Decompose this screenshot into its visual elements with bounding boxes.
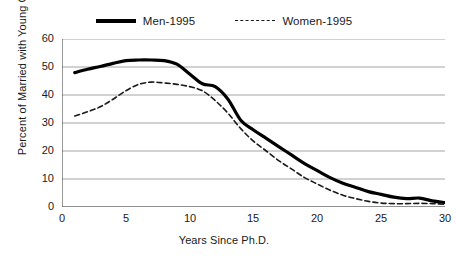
chart-canvas	[62, 39, 445, 207]
y-tick-40: 40	[28, 89, 54, 100]
gridlines	[62, 39, 445, 207]
legend-label-men: Men-1995	[143, 15, 196, 27]
data-series-layer	[75, 60, 445, 204]
y-tick-50: 50	[28, 61, 54, 72]
x-tick-15: 15	[238, 213, 268, 224]
legend-entry-men: Men-1995	[96, 15, 196, 27]
x-tick-30: 30	[430, 213, 456, 224]
y-tick-60: 60	[28, 33, 54, 44]
dashed-line-icon	[235, 16, 275, 26]
legend-entry-women: Women-1995	[235, 15, 352, 27]
x-axis-title: Years Since Ph.D.	[0, 234, 448, 246]
y-axis-title: Percent of Married with Young Children	[16, 0, 28, 158]
x-tick-5: 5	[111, 213, 141, 224]
series-line-women-1995	[75, 82, 445, 204]
y-tick-30: 30	[28, 117, 54, 128]
y-tick-0: 0	[28, 201, 54, 212]
x-tick-20: 20	[302, 213, 332, 224]
series-line-men-1995	[75, 60, 445, 203]
x-tick-25: 25	[366, 213, 396, 224]
solid-line-icon	[96, 16, 136, 26]
x-axis-ticks: 0 5 10 15 20 25 30	[0, 213, 448, 229]
legend-label-women: Women-1995	[282, 15, 352, 27]
plot-area	[62, 39, 445, 207]
x-tick-0: 0	[47, 213, 77, 224]
y-tick-10: 10	[28, 173, 54, 184]
x-tick-10: 10	[175, 213, 205, 224]
y-tick-20: 20	[28, 145, 54, 156]
chart-legend: Men-1995 Women-1995	[0, 9, 448, 33]
